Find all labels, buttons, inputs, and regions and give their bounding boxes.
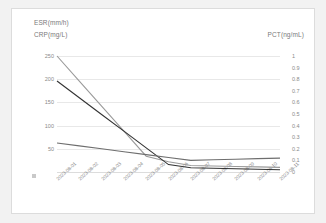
chart-plot-area: ESR(mm/h) CRP(mg/L) PCT(ng/mL) 250200150… <box>12 9 316 215</box>
series-line-pct <box>57 143 280 160</box>
series-line-esr <box>57 56 280 167</box>
chart-card: ESR(mm/h) CRP(mg/L) PCT(ng/mL) 250200150… <box>11 8 315 214</box>
chart-series-lines <box>12 9 316 215</box>
